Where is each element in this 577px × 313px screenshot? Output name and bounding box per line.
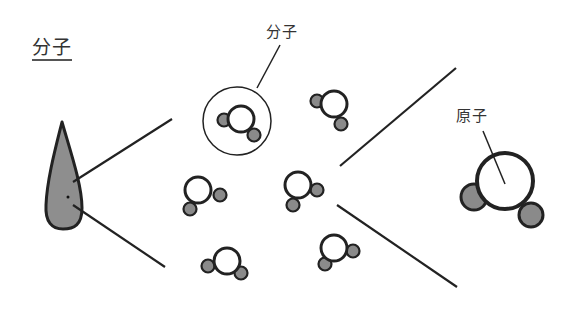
oxygen-atom <box>285 172 311 198</box>
water-molecule <box>285 172 324 212</box>
oxygen-atom <box>185 177 211 203</box>
hydrogen-atom <box>184 203 197 216</box>
diagram-canvas <box>0 0 577 313</box>
zoom-line-upper-right <box>340 68 456 166</box>
molecule-label-leader <box>257 45 280 88</box>
water-molecule <box>184 177 227 216</box>
oxygen-atom <box>228 106 254 132</box>
big-molecule <box>461 153 543 227</box>
water-molecule <box>311 91 348 131</box>
hydrogen-atom <box>347 245 360 258</box>
drop-point <box>67 196 70 199</box>
oxygen-atom <box>477 153 533 209</box>
zoom-line-upper-left <box>73 119 172 182</box>
zoom-line-lower-left <box>73 205 165 267</box>
water-molecule <box>319 235 360 271</box>
hydrogen-atom <box>287 199 300 212</box>
water-molecule <box>202 248 248 280</box>
water-molecule <box>218 106 261 142</box>
water-molecule <box>461 153 543 227</box>
oxygen-atom <box>214 248 240 274</box>
hydrogen-atom <box>519 203 543 227</box>
hydrogen-atom <box>335 118 348 131</box>
water-drop-icon <box>46 122 82 229</box>
hydrogen-atom <box>214 189 227 202</box>
oxygen-atom <box>321 91 347 117</box>
oxygen-atom <box>321 235 347 261</box>
